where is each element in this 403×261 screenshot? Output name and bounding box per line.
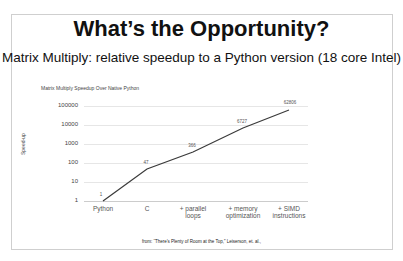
series-line	[0, 0, 403, 261]
data-label: 6727	[227, 119, 257, 124]
data-label: 366	[177, 143, 207, 148]
data-label: 47	[131, 160, 161, 165]
data-label: 62806	[275, 100, 305, 105]
data-label: 1	[86, 192, 116, 197]
source-citation: from: “There’s Plenty of Room at the Top…	[0, 239, 403, 244]
x-tick-label: + SIMDinstructions	[259, 205, 319, 219]
